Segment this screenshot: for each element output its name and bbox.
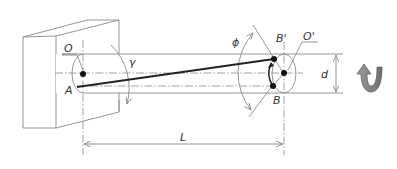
label-b: B [273, 94, 281, 107]
label-d: d [321, 68, 329, 81]
point-o-prime [281, 70, 287, 76]
label-gamma: γ [129, 56, 136, 69]
label-a: A [64, 84, 73, 97]
point-b-prime [271, 56, 277, 62]
leader-o-prime [288, 42, 318, 70]
point-o [80, 71, 86, 77]
label-b-prime: B' [276, 32, 287, 45]
point-b [270, 83, 276, 89]
torsion-diagram: O A γ ϕ B' O' B d L [0, 0, 397, 169]
label-o: O [64, 42, 73, 55]
label-l: L [180, 131, 186, 144]
label-o-prime: O' [303, 30, 315, 43]
rotation-arrow-icon [357, 64, 382, 92]
shaft [56, 54, 343, 93]
label-phi: ϕ [232, 36, 239, 49]
